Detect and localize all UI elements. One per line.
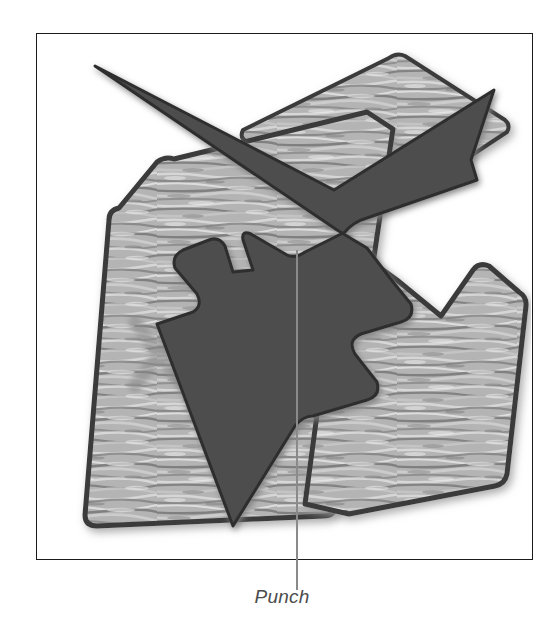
punch-and-workpiece-artwork — [37, 34, 531, 558]
caption-label: Punch — [255, 586, 310, 607]
figure-punch-illustration: Punch — [0, 0, 560, 637]
leader-line — [296, 250, 298, 590]
illustration-frame — [36, 33, 533, 560]
illustration-canvas — [37, 34, 532, 559]
figure-caption: Punch — [0, 586, 560, 608]
